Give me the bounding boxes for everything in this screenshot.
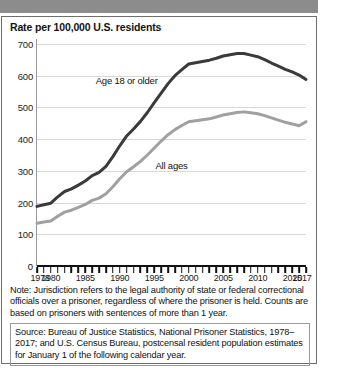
x-tick: [250, 267, 252, 273]
y-tick-label: 700: [18, 39, 33, 50]
x-tick: [264, 267, 266, 273]
series-lines: [37, 44, 306, 266]
x-tick: [160, 267, 162, 273]
series-line: [37, 54, 306, 207]
x-tick-label: 1985: [76, 273, 95, 283]
y-tick-label-zero: 0: [28, 261, 33, 272]
x-tick: [71, 267, 73, 273]
x-tick: [105, 267, 107, 273]
x-tick: [78, 267, 80, 273]
y-tick-label: 200: [18, 197, 33, 208]
x-tick: [119, 267, 121, 273]
x-tick: [133, 267, 135, 273]
x-tick: [112, 267, 114, 273]
top-gray-banner: [0, 0, 318, 13]
x-tick-label: 2010: [248, 273, 267, 283]
x-tick: [243, 267, 245, 273]
series-label: All ages: [155, 160, 187, 171]
x-tick-label: 1990: [110, 273, 129, 283]
x-tick: [153, 267, 155, 273]
x-tick: [91, 267, 93, 273]
x-tick: [84, 267, 86, 273]
x-tick: [284, 267, 286, 273]
x-tick: [140, 267, 142, 273]
x-tick: [291, 267, 293, 273]
chart-source: Source: Bureau of Justice Statistics, Na…: [10, 323, 310, 366]
x-tick: [126, 267, 128, 273]
y-tick-label: 600: [18, 70, 33, 81]
x-tick: [298, 267, 300, 273]
series-label: Age 18 or older: [96, 74, 158, 85]
y-tick-label: 100: [18, 229, 33, 240]
x-tick: [209, 267, 211, 273]
plot-inner: 700600500400300200100 0 1978198019851990…: [37, 44, 306, 266]
x-tick: [195, 267, 197, 273]
x-tick: [278, 267, 280, 273]
x-tick-label: 1995: [145, 273, 164, 283]
x-tick: [305, 267, 307, 273]
x-tick: [222, 267, 224, 273]
x-tick: [229, 267, 231, 273]
x-tick: [98, 267, 100, 273]
x-tick: [147, 267, 149, 273]
x-tick: [64, 267, 66, 273]
x-tick-label: 2017: [293, 273, 312, 283]
x-tick: [57, 267, 59, 273]
chart-figure: Rate per 100,000 U.S. residents 70060050…: [1, 16, 317, 364]
plot-area: 700600500400300200100 0 1978198019851990…: [10, 39, 310, 283]
x-tick-label: 2000: [179, 273, 198, 283]
x-tick: [50, 267, 52, 273]
x-tick: [202, 267, 204, 273]
x-tick: [236, 267, 238, 273]
x-tick: [188, 267, 190, 273]
x-tick: [36, 267, 38, 273]
x-tick: [167, 267, 169, 273]
x-tick-label: 2005: [214, 273, 233, 283]
y-tick-label: 400: [18, 134, 33, 145]
y-tick-label: 300: [18, 165, 33, 176]
x-tick: [216, 267, 218, 273]
x-tick: [181, 267, 183, 273]
chart-note: Note: Jurisdiction refers to the legal a…: [10, 285, 310, 319]
x-tick: [257, 267, 259, 273]
x-tick-label: 1980: [41, 273, 60, 283]
x-tick: [174, 267, 176, 273]
x-tick: [43, 267, 45, 273]
y-tick-label: 500: [18, 102, 33, 113]
chart-title: Rate per 100,000 U.S. residents: [10, 21, 161, 33]
x-tick: [271, 267, 273, 273]
